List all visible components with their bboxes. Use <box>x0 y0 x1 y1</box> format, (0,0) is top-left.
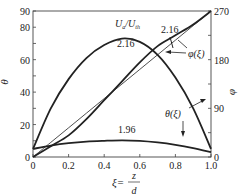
y-right-axis-label: φ <box>225 89 237 95</box>
y-left-tick-label: 90 <box>20 6 30 17</box>
annotation-theta-xi: θ(ξ) <box>165 108 182 120</box>
y-right-tick-label: 90 <box>214 103 224 114</box>
x-tick-label: 0 <box>31 160 36 171</box>
annotation-phi-xi: φ(ξ) <box>188 48 205 60</box>
y-left-tick-label: 80 <box>20 22 30 33</box>
series-line-3 <box>33 11 211 157</box>
x-axis-label: ξ= z d <box>112 170 140 196</box>
y-left-axis-label: θ <box>0 79 10 85</box>
x-tick-label: 0.8 <box>169 160 182 171</box>
annotation-196: 1.96 <box>118 124 136 135</box>
y-left-tick-label: 60 <box>20 55 30 66</box>
y-right-tick-label: 270 <box>214 6 229 17</box>
curves <box>33 11 211 157</box>
svg-text:z: z <box>131 170 136 181</box>
y-left-tick-label: 40 <box>20 87 30 98</box>
x-tick-label: 0.2 <box>62 160 75 171</box>
y-right-tick-label: 180 <box>214 55 229 66</box>
y-left-tick-label: 20 <box>20 120 30 131</box>
svg-text:d: d <box>132 185 138 196</box>
annotation-216-phi: 2.16 <box>161 24 179 35</box>
y-right-tick-label: 0 <box>214 152 219 163</box>
ratio-label: Ua/Uth <box>115 18 140 30</box>
svg-text:Ua/Uth: Ua/Uth <box>115 18 140 30</box>
svg-text:ξ=: ξ= <box>112 176 124 189</box>
chart: 00.20.40.60.81.002040608090090180270 θ φ… <box>0 0 247 196</box>
y-left-tick-label: 0 <box>25 152 30 163</box>
annotation-216-theta: 2.16 <box>117 38 135 49</box>
x-tick-label: 0.4 <box>98 160 111 171</box>
